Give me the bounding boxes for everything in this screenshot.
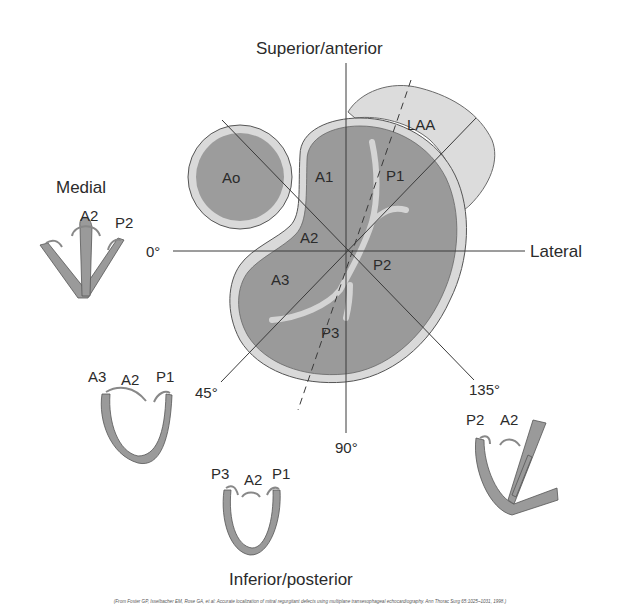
label-segment-p2: P2	[373, 257, 391, 272]
label-medial: Medial	[56, 179, 106, 196]
view-45-label-a2: A2	[121, 372, 139, 387]
view-45-label-p1: P1	[156, 369, 174, 384]
figure-caption: (From Foster GP, Isselbacher EM, Rose GA…	[0, 599, 620, 604]
view-90-label-p1: P1	[272, 466, 290, 481]
label-segment-a2: A2	[300, 230, 318, 245]
view-0-label-p2: P2	[115, 215, 133, 230]
label-angle-135: 135°	[469, 382, 500, 397]
label-inferior-posterior: Inferior/posterior	[229, 571, 353, 588]
view-45-shape	[101, 388, 172, 464]
view-135-label-a2: A2	[500, 412, 518, 427]
view-0-shape	[40, 217, 124, 298]
label-segment-p1: P1	[386, 168, 404, 183]
view-90-label-p3: P3	[211, 466, 229, 481]
view-90-label-a2: A2	[244, 472, 262, 487]
label-angle-45: 45°	[195, 385, 218, 400]
view-90-shape	[223, 486, 280, 555]
label-lateral: Lateral	[530, 243, 582, 260]
label-angle-0: 0°	[146, 244, 160, 259]
mitral-valve-diagram	[0, 0, 620, 613]
label-superior-anterior: Superior/anterior	[256, 40, 383, 57]
view-0-label-a2: A2	[80, 208, 98, 223]
view-45-label-a3: A3	[88, 369, 106, 384]
label-segment-a1: A1	[315, 169, 333, 184]
view-135-label-p2: P2	[466, 412, 484, 427]
label-segment-p3: P3	[321, 325, 339, 340]
label-laa: LAA	[407, 117, 435, 132]
label-angle-90: 90°	[335, 440, 358, 455]
view-135-shape	[475, 420, 558, 515]
label-segment-a3: A3	[271, 272, 289, 287]
label-aorta: Ao	[222, 170, 240, 185]
